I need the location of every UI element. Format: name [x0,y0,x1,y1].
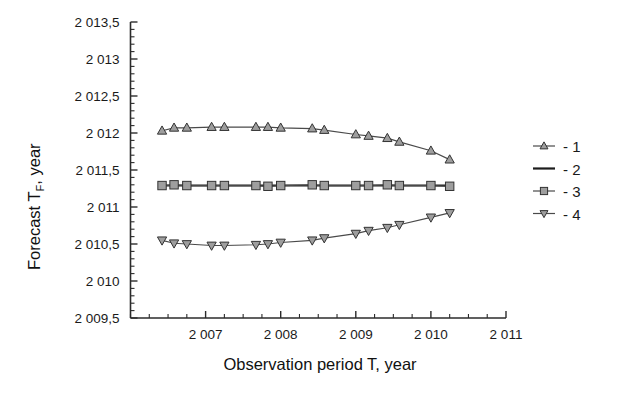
data-point-marker [364,181,372,189]
data-point-marker [320,181,328,189]
y-tick-label: 2 013 [86,52,120,67]
legend-item-label: - 3 [563,183,581,200]
y-tick-label: 2 013,5 [74,15,119,30]
series-line [162,213,450,246]
data-point-marker [251,122,260,130]
legend-marker-sample [540,142,548,149]
x-axis-title-text: Observation period T, year [223,355,417,373]
data-point-marker [445,155,454,163]
data-point-marker [220,242,229,250]
axes-layer [131,22,507,318]
series-4 [157,210,454,251]
data-point-marker [220,122,229,130]
y-tick-label: 2 010 [86,274,120,289]
data-point-marker [252,181,260,189]
data-point-marker [182,123,191,131]
y-tick-label: 2 009,5 [74,311,119,326]
legend-item-label: - 4 [563,206,581,223]
legend-item-3[interactable]: - 3 [533,183,581,200]
data-point-marker [183,181,191,189]
data-point-marker [308,124,317,132]
data-point-marker [383,181,391,189]
x-tick-label: 2 009 [339,327,373,342]
y-tick-label: 2 012 [86,126,120,141]
data-point-marker [264,182,272,190]
legend-item-label: - 2 [563,161,581,178]
x-tick-label: 2 010 [414,327,448,342]
legend-item-1[interactable]: - 1 [533,138,581,155]
x-tick-label: 2 007 [189,327,223,342]
data-point-marker [308,181,316,189]
data-point-marker [445,182,453,190]
legend-item-2[interactable]: - 2 [533,161,581,178]
data-series-layer [157,122,454,250]
tick-labels-layer: 2 009,52 0102 010,52 0112 011,52 0122 01… [74,15,522,342]
y-tick-label: 2 011 [87,200,120,215]
y-axis-title-main: Forecast T [25,191,43,270]
chart-figure: Forecast TF, year Observation period T, … [0,0,622,393]
data-point-marker [427,181,435,189]
y-tick-label: 2 011,5 [75,163,119,178]
y-tick-label: 2 010,5 [74,237,119,252]
x-axis-title: Observation period T, year [223,355,417,373]
line-chart-plot: Forecast TF, year Observation period T, … [0,0,622,393]
series-line [162,127,450,160]
svg-text:Forecast TF, year: Forecast TF, year [25,143,46,270]
series-3 [158,181,454,191]
y-tick-label: 2 012,5 [74,89,119,104]
chart-legend: - 1- 2- 3- 4 [533,138,581,223]
x-tick-label: 2 008 [264,327,298,342]
y-axis-title-tail: , year [25,143,43,185]
data-point-marker [170,181,178,189]
data-point-marker [169,123,178,131]
data-point-marker [277,181,285,189]
y-axis-title: Forecast TF, year [25,143,46,270]
data-point-marker [251,241,260,249]
legend-marker-sample [540,187,547,194]
data-point-marker [263,122,272,130]
data-point-marker [158,181,166,189]
data-point-marker [207,242,216,250]
data-point-marker [220,181,228,189]
data-point-marker [207,122,216,130]
data-point-marker [395,181,403,189]
data-point-marker [207,181,215,189]
data-point-marker [352,181,360,189]
legend-marker-sample [540,211,548,218]
legend-item-label: - 1 [563,138,581,155]
series-1 [157,122,454,163]
x-tick-label: 2 011 [490,327,523,342]
legend-item-4[interactable]: - 4 [533,206,581,223]
